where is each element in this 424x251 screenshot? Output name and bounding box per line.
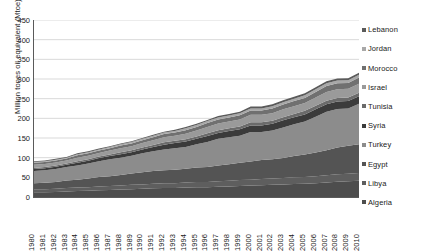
legend-swatch-icon xyxy=(362,47,366,51)
x-axis-tick-label: 2005 xyxy=(298,234,307,251)
y-axis-tick-label: 250 xyxy=(6,94,30,103)
x-axis-tick-label: 2002 xyxy=(265,234,274,251)
legend-item[interactable]: Egypt xyxy=(362,159,388,169)
x-axis-tick-label: 1991 xyxy=(146,234,155,251)
legend-item-label: Libya xyxy=(368,179,386,188)
legend-item[interactable]: Algeria xyxy=(362,197,392,207)
legend-swatch-icon xyxy=(362,28,366,32)
x-axis-tick-label: 2009 xyxy=(341,234,350,251)
legend-item[interactable]: Turkey xyxy=(362,140,391,150)
plot-area xyxy=(33,20,359,198)
x-axis-tick-label: 1989 xyxy=(125,234,134,251)
x-axis-tick-label: 2003 xyxy=(276,234,285,251)
legend-swatch-icon xyxy=(362,85,366,89)
x-axis-tick-label: 1995 xyxy=(190,234,199,251)
legend-swatch-icon xyxy=(362,66,366,70)
y-axis-tick-label: 200 xyxy=(6,114,30,123)
legend-item-label: Tunisia xyxy=(368,102,393,111)
x-axis-tick-label: 1999 xyxy=(233,234,242,251)
legend-item[interactable]: Syria xyxy=(362,121,386,131)
x-axis-tick-label: 1982 xyxy=(49,234,58,251)
y-axis-tick-label: 0 xyxy=(6,193,30,202)
legend-item-label: Lebanon xyxy=(368,25,398,34)
legend-item-label: Morocco xyxy=(368,64,397,73)
y-axis-tick-label: 450 xyxy=(6,16,30,25)
x-axis-tick-label: 1998 xyxy=(222,234,231,251)
x-axis-tick-label: 2000 xyxy=(244,234,253,251)
x-axis-tick-label: 1993 xyxy=(168,234,177,251)
legend-item[interactable]: Morocco xyxy=(362,63,397,73)
x-axis-tick-label: 1994 xyxy=(179,234,188,251)
x-axis-tick-label: 1986 xyxy=(92,234,101,251)
x-axis-tick-label: 1984 xyxy=(70,234,79,251)
legend-item-label: Egypt xyxy=(368,160,388,169)
x-axis-tick-label: 1988 xyxy=(114,234,123,251)
legend-item[interactable]: Libya xyxy=(362,178,386,188)
legend-item[interactable]: Lebanon xyxy=(362,25,398,35)
legend-item-label: Turkey xyxy=(368,140,391,149)
legend-swatch-icon xyxy=(362,143,366,147)
y-axis-tick-label: 100 xyxy=(6,153,30,162)
legend-swatch-icon xyxy=(362,162,366,166)
legend-item-label: Jordan xyxy=(368,44,392,53)
x-axis-tick-label: 1990 xyxy=(135,234,144,251)
plot-svg xyxy=(34,20,359,197)
x-axis-tick-label: 1981 xyxy=(38,234,47,251)
x-axis-tick-label: 1996 xyxy=(200,234,209,251)
y-axis-tick-labels: 050100150200250300350400450 xyxy=(4,0,30,251)
legend-swatch-icon xyxy=(362,200,366,204)
legend-swatch-icon xyxy=(362,124,366,128)
chart-legend: LebanonJordanMoroccoIsraelTunisiaSyriaTu… xyxy=(362,20,424,212)
legend-item[interactable]: Israel xyxy=(362,82,387,92)
x-axis-tick-label: 2004 xyxy=(287,234,296,251)
x-axis-tick-labels: 1980198119821983198419851986198719881989… xyxy=(33,199,359,251)
stacked-area-chart: Million tones oil equivalent (Mtoe) 0501… xyxy=(0,0,424,251)
x-axis-tick-label: 1997 xyxy=(211,234,220,251)
x-axis-tick-label: 1983 xyxy=(60,234,69,251)
y-axis-tick-label: 50 xyxy=(6,173,30,182)
legend-swatch-icon xyxy=(362,104,366,108)
x-axis-tick-label: 1992 xyxy=(157,234,166,251)
x-axis-tick-label: 1985 xyxy=(81,234,90,251)
x-axis-tick-label: 2006 xyxy=(309,234,318,251)
y-axis-tick-label: 300 xyxy=(6,75,30,84)
y-axis-tick-label: 150 xyxy=(6,134,30,143)
x-axis-tick-label: 2001 xyxy=(255,234,264,251)
x-axis-tick-label: 1987 xyxy=(103,234,112,251)
y-axis-tick-label: 350 xyxy=(6,55,30,64)
legend-item-label: Israel xyxy=(368,83,387,92)
legend-item[interactable]: Jordan xyxy=(362,44,392,54)
x-axis-tick-label: 2010 xyxy=(352,234,361,251)
legend-swatch-icon xyxy=(362,181,366,185)
legend-item-label: Algeria xyxy=(368,198,392,207)
x-axis-tick-label: 2008 xyxy=(330,234,339,251)
legend-item[interactable]: Tunisia xyxy=(362,101,393,111)
y-axis-tick-label: 400 xyxy=(6,35,30,44)
legend-item-label: Syria xyxy=(368,121,386,130)
x-axis-tick-label: 1980 xyxy=(27,234,36,251)
x-axis-tick-label: 2007 xyxy=(320,234,329,251)
